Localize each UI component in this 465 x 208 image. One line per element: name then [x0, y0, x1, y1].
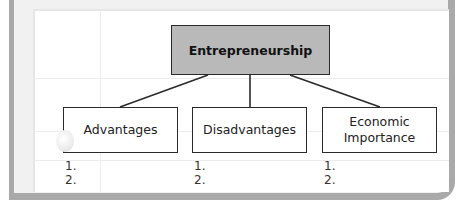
child-node-disadvantages: Disadvantages [192, 107, 307, 153]
child-node-advantages: Advantages [63, 107, 178, 153]
child-node-label: Advantages [84, 122, 158, 138]
root-node-label: Entrepreneurship [189, 43, 313, 58]
list-item: 1. [65, 159, 76, 173]
list-item: 2. [324, 173, 335, 187]
binder-hole [56, 130, 74, 152]
list-item: 2. [194, 173, 205, 187]
child-node-label-line2: Importance [344, 130, 416, 146]
list-item: 1. [324, 159, 335, 173]
list-item: 1. [194, 159, 205, 173]
child-node-economic-importance: Economic Importance [322, 107, 437, 153]
root-node-entrepreneurship: Entrepreneurship [171, 25, 330, 75]
disadvantages-list: 1. 2. [194, 159, 205, 187]
advantages-list: 1. 2. [65, 159, 76, 187]
child-node-label: Disadvantages [203, 122, 296, 138]
list-item: 2. [65, 173, 76, 187]
economic-importance-list: 1. 2. [324, 159, 335, 187]
child-node-label-line1: Economic [349, 114, 410, 130]
